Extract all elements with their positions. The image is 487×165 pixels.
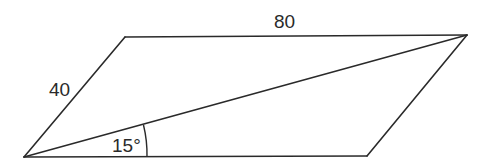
angle-label: 15° — [112, 135, 141, 156]
diagonal — [24, 35, 467, 157]
parallelogram-diagram: 80 40 15° — [0, 0, 487, 165]
top-side — [125, 35, 467, 37]
bottom-side — [24, 156, 367, 157]
angle-arc — [144, 125, 148, 157]
left-side-label: 40 — [49, 79, 70, 100]
left-side — [24, 37, 125, 157]
right-side — [367, 35, 467, 156]
top-side-label: 80 — [274, 11, 295, 32]
